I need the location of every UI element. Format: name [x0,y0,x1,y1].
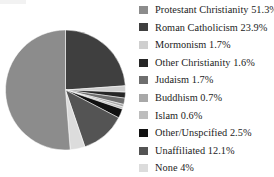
legend-color-swatch [139,6,148,14]
legend-color-swatch [139,111,148,119]
legend-item[interactable]: Roman Catholicism 23.9% [137,19,274,37]
legend: Protestant Christianity 51.3%Roman Catho… [137,0,274,177]
pie-slice[interactable] [5,30,70,150]
legend-item[interactable]: Other Christianity 1.6% [137,54,274,72]
legend-color-swatch [139,59,148,67]
legend-item[interactable]: Unaffiliated 12.1% [137,142,274,160]
legend-item-label: Other Christianity 1.6% [155,54,255,72]
legend-item-label: Mormonism 1.7% [155,36,231,54]
pie-chart-figure: Protestant Christianity 51.3%Roman Catho… [0,0,274,177]
legend-item-label: Islam 0.6% [155,107,202,125]
legend-item-label: Roman Catholicism 23.9% [155,19,267,37]
legend-item[interactable]: Mormonism 1.7% [137,36,274,54]
legend-item[interactable]: Judaism 1.7% [137,71,274,89]
legend-color-swatch [139,129,148,137]
legend-item[interactable]: Other/Unspcified 2.5% [137,124,274,142]
legend-item-label: Unaffiliated 12.1% [155,142,235,160]
legend-color-swatch [139,147,148,155]
legend-color-swatch [139,94,148,102]
legend-item-label: Buddhism 0.7% [155,89,222,107]
legend-color-swatch [139,164,148,172]
legend-color-swatch [139,76,148,84]
legend-item[interactable]: Islam 0.6% [137,107,274,125]
legend-item[interactable]: Buddhism 0.7% [137,89,274,107]
pie-chart [0,0,137,177]
pie-slice[interactable] [66,30,126,90]
legend-item-label: Judaism 1.7% [155,71,213,89]
pie-chart-svg [0,0,137,177]
legend-item-label: Protestant Christianity 51.3% [155,1,274,19]
legend-color-swatch [139,41,148,49]
legend-item-label: Other/Unspcified 2.5% [155,124,252,142]
legend-color-swatch [139,23,148,31]
legend-item[interactable]: None 4% [137,159,274,177]
legend-item[interactable]: Protestant Christianity 51.3% [137,1,274,19]
legend-item-label: None 4% [155,159,194,177]
